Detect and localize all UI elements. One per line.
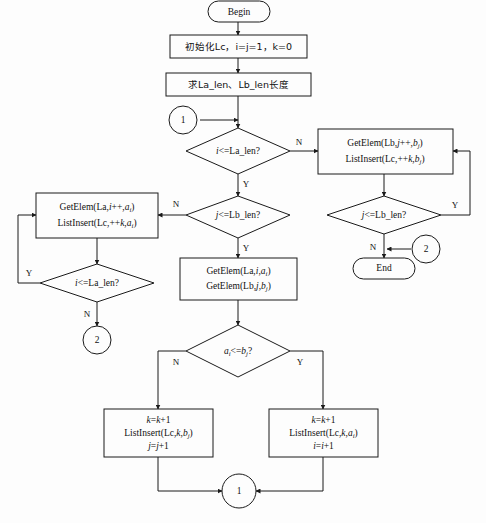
node-init-label: 初始化Lc，i=j=1，k=0 (185, 41, 292, 52)
node-decision-i-le-la-len: i<=La_len? (186, 128, 290, 174)
node-init: 初始化Lc，i=j=1，k=0 (170, 35, 307, 58)
decision-j-le-lb-len-center-label: j<=Lb_len? (214, 210, 260, 220)
process-getelem-lb-line1: GetElem(Lb,j++,bj) (347, 138, 422, 149)
node-process-getelem-both: GetElem(La,i,ai) GetElem(Lb,j,bj) (180, 258, 297, 300)
node-process-getelem-lb: GetElem(Lb,j++,bj) ListInsert(Lc,++k,bj) (318, 129, 453, 174)
node-decision-j-le-lb-len-right: j<=Lb_len? (327, 196, 441, 234)
node-connector-2-left: 2 (83, 326, 111, 354)
edge-label-d-cmp-yes: Y (297, 357, 304, 367)
node-end-label: End (376, 263, 392, 273)
process-getelem-la-line2: ListInsert(Lc,++k,ai) (57, 218, 136, 229)
edge-label-d-i-la-no: N (296, 137, 303, 147)
edge-p-ins-b-to-conn1b (158, 457, 222, 491)
node-connector-1-top: 1 (169, 106, 197, 134)
edge-label-d-j-lb-no: N (173, 199, 180, 209)
connector-2-left-label: 2 (95, 335, 100, 345)
edge-label-d-j-lb-r-yes: Y (452, 200, 459, 210)
edge-d-cmp-yes-to-p-ins-a (290, 351, 323, 409)
connector-2-right-label: 2 (424, 244, 429, 254)
node-decision-compare: ai<=bj? (186, 325, 290, 377)
edge-label-d-j-lb-yes: Y (243, 243, 250, 253)
decision-i-le-la-len-left-label: i<=La_len? (75, 278, 119, 288)
node-getlen: 求La_len、Lb_len长度 (166, 73, 311, 96)
node-end: End (353, 258, 415, 279)
edge-label-d-i-la-yes: Y (243, 179, 250, 189)
process-getelem-both-line2: GetElem(Lb,j,bj) (206, 281, 271, 292)
node-decision-j-le-lb-len-center: j<=Lb_len? (186, 196, 290, 238)
decision-j-le-lb-len-right-label: j<=Lb_len? (360, 210, 406, 220)
node-process-insert-b: k=k+1 ListInsert(Lc,k,bj) j=j+1 (104, 409, 213, 457)
node-getlen-label: 求La_len、Lb_len长度 (188, 79, 289, 90)
edge-label-d-cmp-no: N (173, 357, 180, 367)
node-begin: Begin (208, 1, 270, 22)
node-process-insert-a: k=k+1 ListInsert(Lc,k,ai) i=i+1 (269, 409, 378, 457)
node-decision-i-le-la-len-left: i<=La_len? (40, 264, 154, 302)
process-insert-b-line1: k=k+1 (147, 415, 171, 425)
process-getelem-lb-line2: ListInsert(Lc,++k,bj) (345, 154, 424, 165)
process-insert-a-line1: k=k+1 (312, 415, 336, 425)
process-insert-a-line2: ListInsert(Lc,k,ai) (289, 428, 357, 439)
edge-p-ins-a-to-conn1b (256, 457, 323, 491)
edge-label-d-i-la-l-yes: Y (26, 268, 33, 278)
node-connector-1-bottom: 1 (222, 474, 256, 508)
flowchart-canvas: Begin 初始化Lc，i=j=1，k=0 求La_len、Lb_len长度 1… (0, 0, 486, 523)
connector-1-top-label: 1 (181, 115, 186, 125)
process-insert-b-line3: j=j+1 (146, 441, 169, 451)
process-insert-b-line2: ListInsert(Lc,k,bj) (124, 428, 192, 439)
decision-i-le-la-len-label: i<=La_len? (216, 146, 260, 156)
process-insert-a-line3: i=i+1 (313, 441, 334, 451)
edge-label-d-i-la-l-no: N (84, 309, 91, 319)
process-getelem-la-line1: GetElem(La,i++,ai) (60, 202, 135, 213)
node-begin-label: Begin (228, 7, 251, 17)
node-connector-2-right: 2 (412, 235, 440, 263)
process-getelem-both-line1: GetElem(La,i,ai) (206, 266, 270, 277)
flowchart-svg: Begin 初始化Lc，i=j=1，k=0 求La_len、Lb_len长度 1… (0, 0, 486, 523)
connector-1-bottom-label: 1 (237, 486, 242, 496)
edge-label-d-j-lb-r-no: N (370, 242, 377, 252)
node-process-getelem-la: GetElem(La,i++,ai) ListInsert(Lc,++k,ai) (36, 193, 158, 238)
decision-compare-label: ai<=bj? (224, 346, 252, 356)
